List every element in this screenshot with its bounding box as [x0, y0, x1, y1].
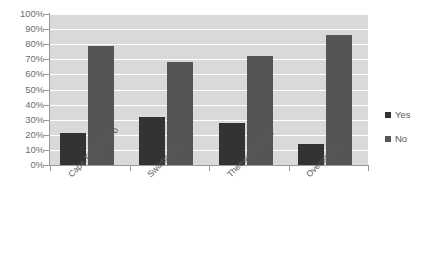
y-axis-tick: [44, 44, 49, 45]
y-axis-tick-label: 0%: [2, 160, 44, 170]
legend-item-yes[interactable]: Yes: [385, 110, 424, 120]
y-axis-tick: [44, 59, 49, 60]
y-axis-tick-label: 20%: [2, 130, 44, 140]
x-axis-tick: [209, 166, 210, 171]
y-axis-tick: [44, 105, 49, 106]
x-axis-tick: [289, 166, 290, 171]
gridline: [50, 29, 368, 30]
legend-label: Yes: [395, 110, 411, 120]
y-axis-tick: [44, 14, 49, 15]
x-axis-tick: [50, 166, 51, 171]
y-axis-tick-label: 70%: [2, 54, 44, 64]
y-axis-tick-label: 10%: [2, 145, 44, 155]
y-axis-tick-label: 50%: [2, 85, 44, 95]
legend: YesNo: [385, 110, 424, 158]
y-axis-tick: [44, 74, 49, 75]
y-axis-tick: [44, 150, 49, 151]
y-axis-tick: [44, 120, 49, 121]
x-axis-tick: [130, 166, 131, 171]
y-axis-tick: [44, 165, 49, 166]
y-axis-tick: [44, 135, 49, 136]
legend-swatch-icon: [385, 112, 391, 118]
y-axis-tick-label: 60%: [2, 69, 44, 79]
y-axis-tick-label: 90%: [2, 24, 44, 34]
legend-label: No: [395, 134, 407, 144]
legend-swatch-icon: [385, 136, 391, 142]
legend-item-no[interactable]: No: [385, 134, 424, 144]
y-axis-tick-labels: 0%10%20%30%40%50%60%70%80%90%100%: [0, 0, 44, 260]
y-axis-tick-label: 80%: [2, 39, 44, 49]
y-axis-line: [49, 13, 50, 166]
y-axis-tick: [44, 29, 49, 30]
gridline: [50, 14, 368, 15]
bar-chart: 0%10%20%30%40%50%60%70%80%90%100% Cape T…: [0, 0, 424, 260]
y-axis-tick-label: 100%: [2, 9, 44, 19]
y-axis-tick-label: 30%: [2, 115, 44, 125]
y-axis-tick: [44, 90, 49, 91]
y-axis-tick-label: 40%: [2, 100, 44, 110]
x-axis-tick: [368, 166, 369, 171]
